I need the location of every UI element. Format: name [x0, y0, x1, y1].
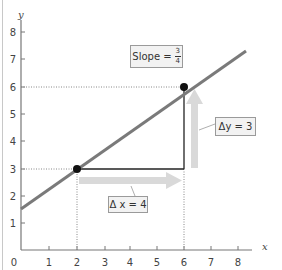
svg-text:5: 5: [10, 109, 16, 120]
line-series: [21, 51, 246, 209]
svg-text:0: 0: [11, 257, 17, 268]
point-2-3: [73, 165, 81, 173]
delta-y-annotation: Δy = 3: [215, 117, 256, 136]
svg-text:2: 2: [74, 257, 80, 268]
svg-text:8: 8: [10, 27, 16, 38]
delta-y-arrow: [186, 89, 203, 168]
delta-x-leader: [131, 186, 135, 196]
svg-text:5: 5: [154, 257, 160, 268]
svg-text:7: 7: [10, 54, 16, 65]
delta-x-annotation: Δ x = 4: [108, 196, 148, 213]
delta-x-arrow: [79, 172, 182, 189]
svg-text:4: 4: [127, 257, 133, 268]
svg-text:1: 1: [46, 257, 52, 268]
x-tick-labels: 0 1 2 3 4 5 6 7 8: [11, 257, 241, 268]
svg-text:7: 7: [208, 257, 214, 268]
slope-prefix: Slope =: [132, 51, 171, 62]
delta-y-leader: [199, 124, 215, 130]
slope-fraction: 3 4: [175, 48, 181, 65]
y-axis-label: y: [17, 9, 24, 20]
svg-text:4: 4: [10, 136, 16, 147]
point-6-6: [180, 83, 188, 91]
svg-text:3: 3: [102, 257, 108, 268]
svg-text:8: 8: [235, 257, 241, 268]
svg-text:2: 2: [10, 191, 16, 202]
svg-text:1: 1: [10, 218, 16, 229]
svg-text:3: 3: [10, 164, 16, 175]
svg-text:6: 6: [181, 257, 187, 268]
x-axis-label: x: [262, 241, 268, 252]
slope-numerator: 3: [175, 48, 179, 55]
slope-annotation: Slope = 3 4: [130, 45, 183, 68]
y-tick-labels: 1 2 3 4 5 6 7 8: [10, 27, 16, 229]
svg-text:6: 6: [10, 82, 16, 93]
slope-denominator: 4: [175, 58, 179, 65]
